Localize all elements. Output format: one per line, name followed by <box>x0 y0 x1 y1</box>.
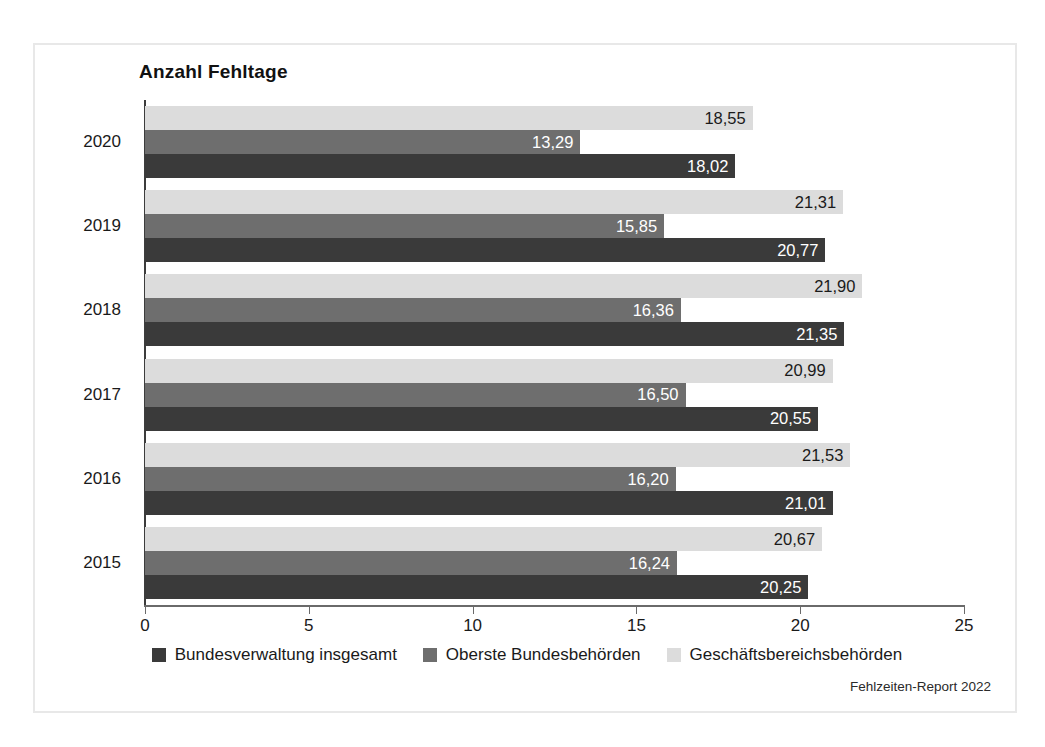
bar-group: 201520,6716,2420,25 <box>145 527 964 599</box>
legend-item: Bundesverwaltung insgesamt <box>152 645 397 665</box>
x-tick-label: 5 <box>304 616 313 636</box>
bar: 20,67 <box>145 527 822 551</box>
bar: 13,29 <box>145 130 580 154</box>
bar-value-label: 21,35 <box>796 326 844 343</box>
bar-group: 201821,9016,3621,35 <box>145 274 964 346</box>
x-tick-mark <box>636 605 637 614</box>
x-tick-mark <box>145 605 146 614</box>
legend-swatch-icon <box>667 648 681 662</box>
bar-value-label: 18,02 <box>687 158 735 175</box>
source-note: Fehlzeiten-Report 2022 <box>850 679 991 694</box>
x-tick-mark <box>309 605 310 614</box>
legend-label: Oberste Bundesbehörden <box>446 645 641 665</box>
bar: 21,31 <box>145 190 843 214</box>
legend-label: Bundesverwaltung insgesamt <box>175 645 397 665</box>
y-axis-category-label: 2015 <box>83 553 121 573</box>
chart-title: Anzahl Fehltage <box>139 61 288 83</box>
bar-value-label: 18,55 <box>704 110 752 127</box>
bar-group: 202018,5513,2918,02 <box>145 106 964 178</box>
x-tick-mark <box>964 605 965 614</box>
bar: 21,90 <box>145 274 862 298</box>
bar: 18,55 <box>145 106 753 130</box>
bar-value-label: 20,99 <box>784 362 832 379</box>
legend-item: Geschäftsbereichsbehörden <box>667 645 903 665</box>
bar: 16,36 <box>145 298 681 322</box>
x-tick-label: 20 <box>791 616 810 636</box>
x-tick-mark <box>800 605 801 614</box>
legend-item: Oberste Bundesbehörden <box>423 645 641 665</box>
bar: 15,85 <box>145 214 664 238</box>
bar-value-label: 16,36 <box>633 302 681 319</box>
bar: 16,20 <box>145 467 676 491</box>
x-tick-mark <box>473 605 474 614</box>
bar-group: 201720,9916,5020,55 <box>145 359 964 431</box>
bar-value-label: 20,55 <box>770 410 818 427</box>
legend-swatch-icon <box>423 648 437 662</box>
bar-group: 201621,5316,2021,01 <box>145 443 964 515</box>
bar: 20,77 <box>145 238 825 262</box>
y-axis-category-label: 2017 <box>83 385 121 405</box>
bar: 20,55 <box>145 407 818 431</box>
x-tick-label: 25 <box>955 616 974 636</box>
bar-value-label: 20,77 <box>777 242 825 259</box>
bar-value-label: 20,67 <box>774 531 822 548</box>
y-axis-category-label: 2018 <box>83 300 121 320</box>
chart-figure: Anzahl Fehltage 0510152025 202018,5513,2… <box>33 43 1017 713</box>
bar: 20,99 <box>145 359 833 383</box>
plot-area: 0510152025 202018,5513,2918,02201921,311… <box>145 100 964 605</box>
x-tick-label: 10 <box>463 616 482 636</box>
y-axis-category-label: 2020 <box>83 132 121 152</box>
bar-value-label: 21,53 <box>802 447 850 464</box>
bar-value-label: 13,29 <box>532 134 580 151</box>
bar: 18,02 <box>145 154 735 178</box>
bar-value-label: 16,24 <box>629 555 677 572</box>
y-axis-category-label: 2016 <box>83 469 121 489</box>
bar-value-label: 15,85 <box>616 218 664 235</box>
legend-swatch-icon <box>152 648 166 662</box>
bar-value-label: 21,90 <box>814 278 862 295</box>
x-tick-label: 0 <box>140 616 149 636</box>
legend-label: Geschäftsbereichsbehörden <box>690 645 903 665</box>
bar: 21,35 <box>145 322 844 346</box>
bar: 21,53 <box>145 443 850 467</box>
bar: 16,24 <box>145 551 677 575</box>
x-axis-line <box>144 605 965 607</box>
bar: 20,25 <box>145 575 808 599</box>
bar-value-label: 20,25 <box>760 579 808 596</box>
bar: 21,01 <box>145 491 833 515</box>
bar-value-label: 16,50 <box>637 386 685 403</box>
bar-group: 201921,3115,8520,77 <box>145 190 964 262</box>
bar: 16,50 <box>145 383 686 407</box>
bar-value-label: 21,31 <box>795 194 843 211</box>
y-axis-category-label: 2019 <box>83 216 121 236</box>
x-tick-label: 15 <box>627 616 646 636</box>
chart-legend: Bundesverwaltung insgesamtOberste Bundes… <box>35 645 1019 665</box>
bar-value-label: 21,01 <box>785 495 833 512</box>
bar-value-label: 16,20 <box>627 471 675 488</box>
